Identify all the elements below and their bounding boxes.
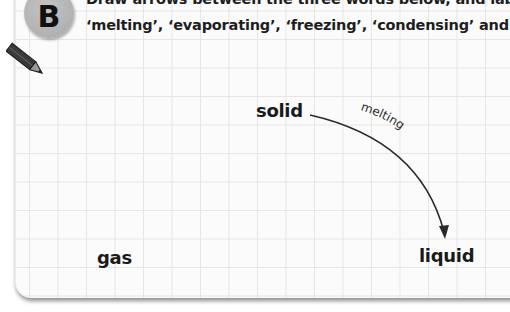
badge-letter: B <box>38 0 61 34</box>
instruction-line-2: ‘melting’, ‘evaporating’, ‘freezing’, ‘c… <box>86 17 510 33</box>
word-liquid: liquid <box>419 245 474 266</box>
worksheet-page: B Draw arrows between the three words be… <box>0 0 510 312</box>
instruction-line-1: Draw arrows between the three words belo… <box>86 0 510 7</box>
word-solid: solid <box>256 100 303 121</box>
word-gas: gas <box>97 247 132 268</box>
pencil-icon <box>6 42 50 82</box>
